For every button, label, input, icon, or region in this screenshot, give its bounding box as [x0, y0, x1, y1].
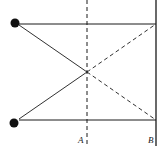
- top-diagonal-ray-solid: [19, 25, 87, 72]
- bottom-source-dot-icon: [10, 119, 19, 128]
- bottom-diagonal-ray-dashed: [87, 24, 156, 72]
- ray-diagram: A B: [0, 0, 164, 155]
- top-diagonal-ray-dashed: [87, 72, 156, 120]
- label-a: A: [77, 135, 84, 145]
- bottom-diagonal-ray-solid: [19, 72, 87, 119]
- top-source-dot-icon: [11, 19, 20, 28]
- label-b: B: [148, 135, 154, 145]
